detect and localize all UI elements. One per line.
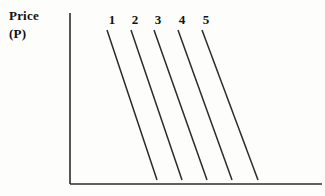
demand-curve-2 — [131, 30, 182, 180]
curve-label-3: 3 — [151, 12, 165, 28]
demand-curve-1 — [107, 30, 157, 180]
diagram-canvas: Price (P) 12345 — [0, 0, 325, 196]
curve-label-1: 1 — [105, 12, 119, 28]
axes-group — [70, 13, 322, 184]
plot-area — [0, 0, 325, 196]
demand-curve-3 — [154, 30, 207, 180]
curve-label-4: 4 — [175, 12, 189, 28]
curve-label-2: 2 — [128, 12, 142, 28]
demand-curve-4 — [178, 30, 232, 180]
curve-label-5: 5 — [199, 12, 213, 28]
demand-curve-5 — [202, 30, 258, 180]
demand-curves-group — [107, 30, 258, 180]
